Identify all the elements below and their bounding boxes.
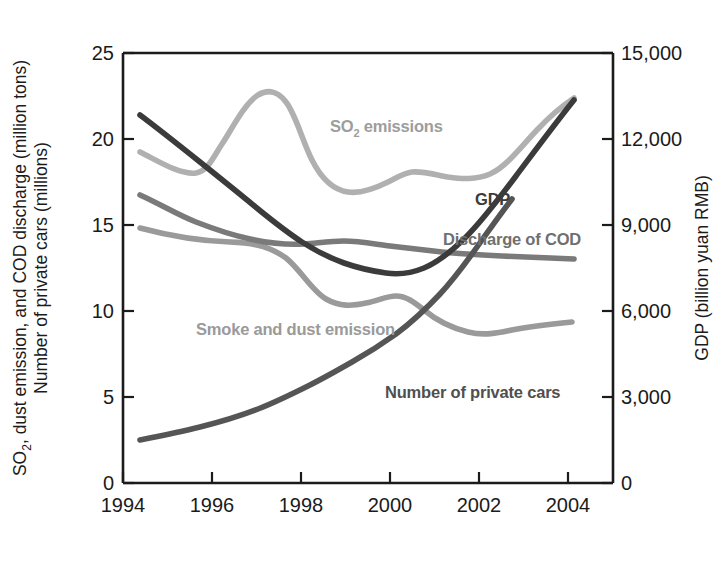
left-axis-title-so2-pre: SO xyxy=(10,451,30,476)
x-tick-2000: 2000 xyxy=(368,494,413,516)
x-tick-1994: 1994 xyxy=(101,494,146,516)
right-tick-0: 0 xyxy=(621,472,632,494)
right-tick-3000: 3,000 xyxy=(621,386,671,408)
left-tick-15: 15 xyxy=(92,214,114,236)
right-tick-15000: 15,000 xyxy=(621,42,682,64)
right-tick-12000: 12,000 xyxy=(621,128,682,150)
left-tick-5: 5 xyxy=(103,386,114,408)
left-tick-20: 20 xyxy=(92,128,114,150)
x-tick-1996: 1996 xyxy=(190,494,235,516)
left-tick-0: 0 xyxy=(103,472,114,494)
x-axis-tick-labels: 1994 1996 1998 2000 2002 2004 xyxy=(101,494,591,516)
left-axis-ticks xyxy=(123,53,134,483)
x-tick-2002: 2002 xyxy=(457,494,502,516)
right-tick-6000: 6,000 xyxy=(621,300,671,322)
x-tick-1998: 1998 xyxy=(279,494,324,516)
left-tick-25: 25 xyxy=(92,42,114,64)
series-label-so2-emissions: SO2 emissions xyxy=(330,117,443,139)
right-axis-ticks xyxy=(602,53,613,483)
chart-figure: 0 5 10 15 20 25 0 3,000 6,000 9,000 12,0… xyxy=(0,0,726,564)
series-label-gdp: GDP xyxy=(475,190,510,208)
right-axis-title-text: GDP (billion yuan RMB) xyxy=(692,175,712,360)
series-label-so2-post: emissions xyxy=(359,117,442,135)
series-label-discharge-of-cod: Discharge of COD xyxy=(443,230,581,248)
series-label-smoke-and-dust-emission: Smoke and dust emission xyxy=(196,320,395,338)
right-tick-9000: 9,000 xyxy=(621,214,671,236)
series-line-so2-emissions xyxy=(140,92,574,193)
right-axis-tick-labels: 0 3,000 6,000 9,000 12,000 15,000 xyxy=(621,42,682,494)
left-axis-title: SO2, dust emission, and COD discharge (m… xyxy=(10,60,51,476)
left-tick-10: 10 xyxy=(92,300,114,322)
x-axis-ticks xyxy=(123,472,568,483)
left-axis-tick-labels: 0 5 10 15 20 25 xyxy=(92,42,114,494)
right-axis-title: GDP (billion yuan RMB) xyxy=(692,175,712,360)
series-label-number-of-private-cars: Number of private cars xyxy=(385,383,560,401)
x-tick-2004: 2004 xyxy=(546,494,591,516)
left-axis-title-line2: Number of private cars (millions) xyxy=(31,142,51,394)
left-axis-title-so2-post: , dust emission, and COD discharge (mill… xyxy=(10,60,30,444)
series-label-so2-pre: SO xyxy=(330,117,354,135)
dual-axis-line-chart: 0 5 10 15 20 25 0 3,000 6,000 9,000 12,0… xyxy=(0,0,726,564)
